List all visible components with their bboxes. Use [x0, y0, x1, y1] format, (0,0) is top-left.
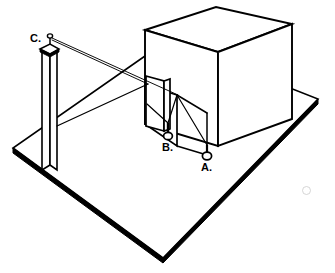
post-left-face [42, 47, 50, 170]
upright-post-group [40, 34, 59, 170]
figure-root: C. B. A. [0, 0, 335, 273]
label-a: A. [201, 161, 212, 173]
post-eyelet-ring [47, 34, 52, 38]
paper-smudge-artifact [302, 186, 311, 195]
post-right-face [50, 47, 57, 170]
label-b: B. [162, 141, 173, 153]
ring-a-loop [202, 152, 211, 160]
tension-cord-lower [52, 40, 148, 84]
flap-panel-group [146, 76, 170, 131]
technical-drawing-svg: C. B. A. [0, 0, 335, 273]
label-c: C. [30, 32, 41, 44]
ring-b-loop [164, 132, 173, 139]
